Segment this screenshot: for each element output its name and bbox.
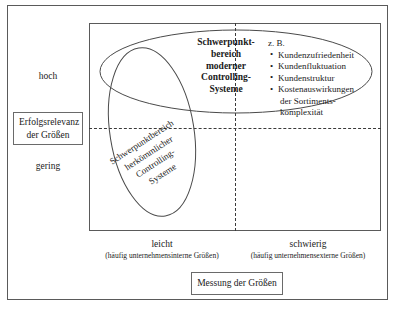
- list-item: • Kundenzufriedenheit: [278, 50, 380, 61]
- list-item-label: Kundenfluktuation: [278, 61, 346, 71]
- list-item-label: Kostenauswirkungen: [278, 84, 354, 94]
- list-item-label: Kundenstruktur: [278, 73, 335, 83]
- list-item: • Kundenstruktur: [278, 73, 380, 84]
- x-axis-left-label: leicht: [89, 238, 235, 250]
- modern-label-line-4: Controlling-: [186, 72, 266, 84]
- list-item: • Kundenfluktuation: [278, 61, 380, 72]
- y-axis-title-line-2: der Größen: [19, 129, 77, 142]
- list-item-label-continued-2: komplexität: [278, 107, 380, 118]
- bullet-icon: •: [270, 72, 273, 83]
- modern-label-line-2: bereich: [186, 49, 266, 61]
- x-axis-left-label-group: leicht (häufig unternehmensinterne Größe…: [89, 238, 235, 261]
- modern-label-line-5: Systeme: [186, 84, 266, 96]
- y-axis-title-line-1: Erfolgsrelevanz: [19, 116, 77, 129]
- x-axis-right-sublabel: (häufig unternehmensexterne Größen): [235, 250, 381, 261]
- y-axis-low-label: gering: [13, 161, 83, 171]
- examples-intro: z. B.: [268, 38, 380, 49]
- y-axis-title-box: Erfolgsrelevanz der Größen: [13, 112, 83, 145]
- modern-label-line-3: moderner: [186, 61, 266, 73]
- bullet-icon: •: [270, 49, 273, 60]
- examples-list-block: z. B. • Kundenzufriedenheit • Kundenfluk…: [268, 38, 380, 118]
- examples-list: • Kundenzufriedenheit • Kundenfluktuatio…: [268, 50, 380, 118]
- x-axis-right-label: schwierig: [235, 238, 381, 250]
- modern-label-line-1: Schwerpunkt-: [186, 37, 266, 49]
- bullet-icon: •: [270, 84, 273, 95]
- x-axis-left-sublabel: (häufig unternehmensinterne Größen): [89, 250, 235, 261]
- figure-container: Schwerpunkt- bereich moderner Controllin…: [0, 0, 396, 313]
- x-axis-title-box: Messung der Größen: [191, 272, 283, 295]
- modern-controlling-region-label: Schwerpunkt- bereich moderner Controllin…: [186, 37, 266, 96]
- bullet-icon: •: [270, 61, 273, 72]
- x-axis-right-label-group: schwierig (häufig unternehmensexterne Gr…: [235, 238, 381, 261]
- list-item-label: Kundenzufriedenheit: [278, 50, 354, 60]
- list-item: • Kostenauswirkungen der Sortiments- kom…: [278, 84, 380, 118]
- y-axis-high-label: hoch: [13, 71, 83, 81]
- list-item-label-continued: der Sortiments-: [278, 96, 380, 107]
